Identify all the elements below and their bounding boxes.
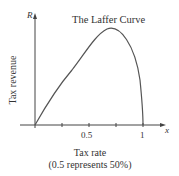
laffer-chart: The Laffer Curve R x 0.5 1 Tax revenue T…: [0, 0, 179, 176]
x-tick-label-1: 1: [140, 130, 145, 140]
x-axis-label: Tax rate: [74, 147, 107, 158]
y-axis-label: Tax revenue: [7, 55, 18, 105]
laffer-curve: [35, 28, 143, 125]
x-axis-note: (0.5 represents 50%): [48, 159, 131, 171]
x-axis-symbol: x: [164, 125, 169, 135]
chart-title: The Laffer Curve: [72, 14, 146, 25]
x-tick-label-0-5: 0.5: [81, 130, 93, 140]
y-axis-symbol: R: [26, 10, 33, 20]
y-axis-arrow-icon: [33, 13, 37, 19]
